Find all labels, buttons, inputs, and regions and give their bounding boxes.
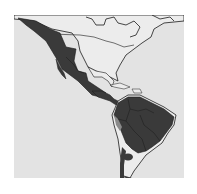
map-canvas <box>14 15 184 178</box>
hispaniola <box>132 89 142 93</box>
range-map: Species range map — Americas <box>14 15 184 178</box>
